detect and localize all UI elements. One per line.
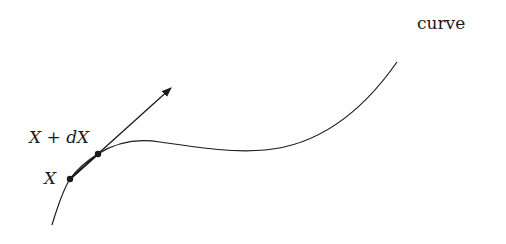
curve-path: [52, 62, 397, 225]
curve-label: curve: [417, 13, 465, 33]
point-x-dot: [67, 176, 73, 182]
point-xdx-dot: [95, 151, 101, 157]
point-x-label: X: [44, 168, 56, 188]
diagram-canvas: [0, 0, 506, 244]
dx-segment: [70, 154, 98, 179]
point-xdx-label: X + dX: [29, 127, 89, 147]
